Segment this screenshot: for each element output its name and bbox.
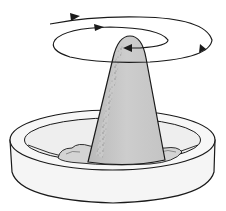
cone [88, 36, 165, 165]
arrow-right-icon [94, 24, 104, 31]
diagram-canvas [0, 0, 226, 211]
